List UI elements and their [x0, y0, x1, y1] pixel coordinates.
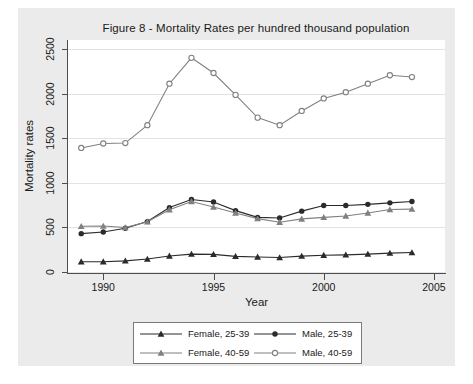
x-axis-tick-label: 1995 — [184, 281, 244, 293]
legend-item[interactable]: Female, 25-39 — [138, 324, 249, 343]
x-axis-line — [68, 273, 446, 274]
y-axis-tick-label-text: 1500 — [44, 126, 56, 149]
y-axis-title-text: Mortality rates — [23, 120, 35, 192]
y-axis-tick-label-text: 2500 — [44, 37, 56, 60]
legend: Female, 25-39Male, 25-39Female, 40-59Mal… — [133, 322, 362, 364]
chart-title: Figure 8 - Mortality Rates per hundred t… — [68, 22, 444, 38]
legend-item[interactable]: Male, 40-59 — [252, 343, 352, 362]
x-axis-tick — [103, 274, 104, 280]
legend-label: Male, 40-59 — [302, 347, 352, 358]
x-axis-tick — [434, 274, 435, 280]
y-axis-tick-label: 500 — [38, 221, 62, 233]
y-axis-tick-label: 2500 — [38, 43, 62, 55]
y-axis-tick-label-text: 1000 — [44, 171, 56, 194]
y-axis-tick — [62, 227, 68, 228]
y-axis-tick-label: 2000 — [38, 88, 62, 100]
y-axis-tick — [62, 94, 68, 95]
gridline-y — [68, 138, 445, 139]
y-axis-tick-label: 1500 — [38, 132, 62, 144]
gridline-y — [68, 183, 445, 184]
y-axis-tick-label-text: 500 — [44, 219, 56, 237]
x-axis-tick — [324, 274, 325, 280]
y-axis-tick — [62, 49, 68, 50]
x-axis-tick-label: 2005 — [404, 281, 464, 293]
x-axis-tick-label: 1990 — [73, 281, 133, 293]
gridline-y — [68, 49, 445, 50]
y-axis-tick-label-text: 0 — [44, 269, 56, 275]
legend-label: Female, 40-59 — [188, 347, 249, 358]
legend-label: Female, 25-39 — [188, 328, 249, 339]
y-axis-tick-label: 1000 — [38, 177, 62, 189]
y-axis-line — [67, 40, 68, 274]
x-axis-tick — [214, 274, 215, 280]
y-axis-tick-label-text: 2000 — [44, 82, 56, 105]
y-axis-tick — [62, 138, 68, 139]
plot-area — [68, 40, 445, 272]
legend-item[interactable]: Female, 40-59 — [138, 343, 249, 362]
y-axis-tick-label: 0 — [38, 266, 62, 278]
legend-key-filled-triangle-icon — [138, 346, 184, 360]
gridline-y — [68, 227, 445, 228]
legend-key-filled-circle-icon — [252, 327, 298, 341]
x-axis-title: Year — [68, 296, 445, 308]
figure-container: Figure 8 - Mortality Rates per hundred t… — [0, 0, 473, 384]
y-axis-title: Mortality rates — [22, 40, 36, 272]
x-axis-tick-label: 2000 — [294, 281, 354, 293]
y-axis-tick — [62, 183, 68, 184]
legend-item[interactable]: Male, 25-39 — [252, 324, 352, 343]
gridline-y — [68, 94, 445, 95]
legend-label: Male, 25-39 — [302, 328, 352, 339]
y-axis-tick — [62, 272, 68, 273]
legend-key-filled-triangle-icon — [138, 327, 184, 341]
legend-key-open-circle-icon — [252, 346, 298, 360]
